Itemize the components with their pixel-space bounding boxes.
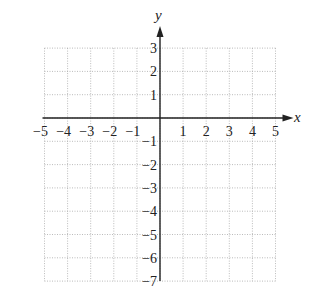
svg-text:−1: −1 <box>125 124 140 139</box>
svg-text:2: 2 <box>203 124 210 139</box>
y-axis-label: y <box>153 7 162 23</box>
x-axis-label: x <box>293 109 301 125</box>
svg-text:−5: −5 <box>33 124 48 139</box>
svg-text:−7: −7 <box>142 274 157 289</box>
svg-text:−3: −3 <box>142 181 157 196</box>
svg-text:−2: −2 <box>142 158 157 173</box>
svg-text:1: 1 <box>150 88 157 103</box>
svg-text:−6: −6 <box>142 251 157 266</box>
coordinate-grid: −5−4−3−2−112345321−1−2−3−4−5−6−7 x y <box>0 0 316 303</box>
svg-text:−1: −1 <box>142 134 157 149</box>
svg-text:−5: −5 <box>142 228 157 243</box>
tick-labels: −5−4−3−2−112345321−1−2−3−4−5−6−7 <box>33 41 279 289</box>
svg-text:3: 3 <box>150 41 157 56</box>
axes <box>43 26 294 281</box>
svg-text:5: 5 <box>272 124 279 139</box>
svg-text:2: 2 <box>150 64 157 79</box>
svg-text:−4: −4 <box>56 124 71 139</box>
svg-text:−3: −3 <box>79 124 94 139</box>
svg-text:−2: −2 <box>102 124 117 139</box>
svg-text:3: 3 <box>226 124 233 139</box>
svg-text:1: 1 <box>180 124 187 139</box>
svg-text:4: 4 <box>249 124 256 139</box>
svg-text:−4: −4 <box>142 204 157 219</box>
